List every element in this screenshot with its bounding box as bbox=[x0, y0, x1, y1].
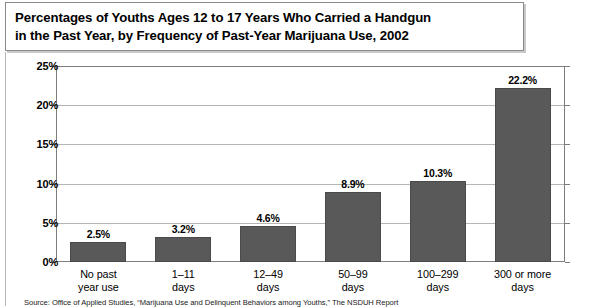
bar-value-label: 2.5% bbox=[58, 228, 138, 240]
page-left-rule bbox=[5, 52, 6, 306]
y-axis-tick-mark-right bbox=[565, 105, 570, 106]
gridline bbox=[57, 184, 564, 185]
bar bbox=[325, 192, 381, 262]
bar bbox=[240, 226, 296, 262]
chart-title-box: Percentages of Youths Ages 12 to 17 Year… bbox=[5, 2, 524, 51]
y-axis-tick-label: 15% bbox=[12, 138, 58, 150]
bar-value-label: 10.3% bbox=[398, 167, 478, 179]
y-axis-tick-label: 25% bbox=[12, 60, 58, 72]
bar-value-label: 3.2% bbox=[143, 223, 223, 235]
y-axis-tick-mark-right bbox=[565, 262, 570, 263]
y-axis-tick-mark-right bbox=[565, 144, 570, 145]
bar bbox=[155, 237, 211, 262]
y-axis-tick-label: 5% bbox=[12, 217, 58, 229]
y-axis-tick-mark-right bbox=[565, 66, 570, 67]
bar-value-label: 22.2% bbox=[483, 74, 563, 86]
bar bbox=[410, 181, 466, 262]
gridline bbox=[57, 223, 564, 224]
y-axis-tick-mark-right bbox=[565, 184, 570, 185]
y-axis-tick-label: 0% bbox=[12, 256, 58, 268]
bar-value-label: 4.6% bbox=[228, 212, 308, 224]
bar-value-label: 8.9% bbox=[313, 178, 393, 190]
bar bbox=[495, 88, 551, 262]
gridline bbox=[57, 105, 564, 106]
bar bbox=[70, 242, 126, 262]
y-axis-tick-label: 10% bbox=[12, 178, 58, 190]
y-axis-tick-label: 20% bbox=[12, 99, 58, 111]
gridline bbox=[57, 144, 564, 145]
x-axis-category-label: 300 or more days bbox=[473, 268, 573, 294]
y-axis-tick-mark-right bbox=[565, 223, 570, 224]
chart-title: Percentages of Youths Ages 12 to 17 Year… bbox=[6, 9, 439, 43]
source-note: Source: Office of Applied Studies, “Mari… bbox=[24, 298, 398, 307]
